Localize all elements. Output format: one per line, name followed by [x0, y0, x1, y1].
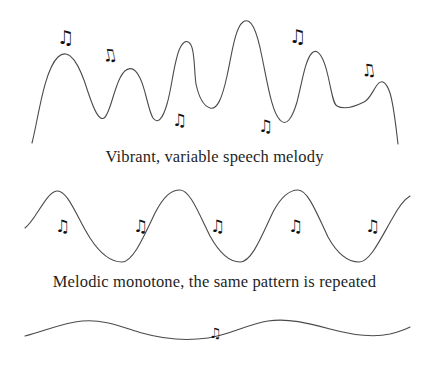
music-note-icon: ♫: [209, 326, 222, 340]
music-note-icon: ♫: [55, 218, 70, 235]
music-note-icon: ♫: [133, 218, 148, 235]
speech-melody-figure: Vibrant, variable speech melody Melodic …: [0, 0, 429, 365]
caption-vibrant-speech-melody: Vibrant, variable speech melody: [0, 147, 429, 167]
music-note-icon: ♫: [210, 218, 225, 235]
wave-line: [32, 21, 398, 144]
music-note-icon: ♫: [360, 61, 377, 80]
music-note-icon: ♫: [289, 27, 306, 46]
music-note-icon: ♫: [172, 112, 187, 129]
caption-melodic-monotone: Melodic monotone, the same pattern is re…: [0, 272, 429, 292]
music-note-icon: ♫: [288, 218, 303, 235]
music-note-icon: ♫: [258, 118, 273, 135]
music-note-icon: ♫: [57, 28, 74, 47]
music-note-icon: ♫: [100, 46, 118, 66]
music-note-icon: ♫: [365, 218, 380, 235]
